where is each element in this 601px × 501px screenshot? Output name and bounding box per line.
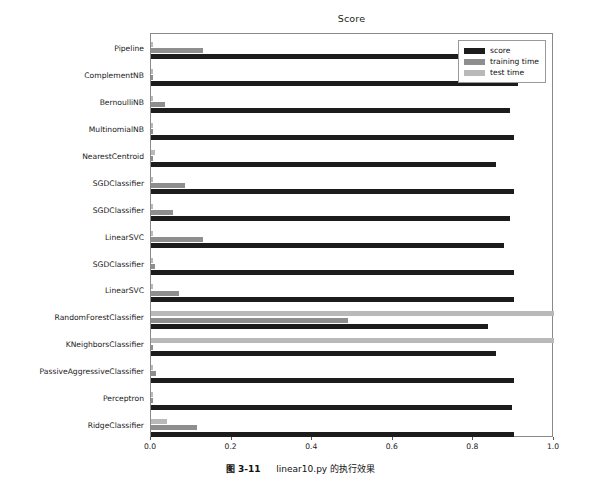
bar-group <box>151 142 552 169</box>
bar-group <box>151 357 552 384</box>
bar-group <box>151 169 552 196</box>
bar-score <box>151 243 504 248</box>
bar-test <box>151 365 153 370</box>
bar-score <box>151 432 514 437</box>
bar-train <box>151 183 185 188</box>
bar-score <box>151 135 514 140</box>
legend-item-train: training time <box>464 56 539 67</box>
bar-train <box>151 398 153 403</box>
x-tick-label: 0.0 <box>144 442 156 451</box>
bar-train <box>151 425 197 430</box>
x-tick-mark <box>311 437 312 440</box>
y-tick-label: Perceptron <box>103 394 144 403</box>
x-tick-mark <box>150 437 151 440</box>
bar-train <box>151 210 173 215</box>
y-tick-label: LinearSVC <box>105 286 144 295</box>
x-tick-mark <box>472 437 473 440</box>
y-tick-label: BernoulliNB <box>100 97 144 106</box>
bar-group <box>151 223 552 250</box>
y-axis-tick-labels: PipelineComplementNBBernoulliNBMultinomi… <box>0 33 144 437</box>
x-tick-label: 0.4 <box>305 442 317 451</box>
matplotlib-figure: Score PipelineComplementNBBernoulliNBMul… <box>0 0 601 501</box>
bar-test <box>151 42 153 47</box>
x-tick-label: 0.8 <box>466 442 478 451</box>
bar-test <box>151 150 155 155</box>
bar-test <box>151 419 167 424</box>
bar-train <box>151 237 203 242</box>
y-tick-label: ComplementNB <box>84 71 144 80</box>
x-tick-mark <box>392 437 393 440</box>
legend-label: score <box>490 46 510 55</box>
x-axis: 0.00.20.40.60.81.0 <box>150 437 553 461</box>
bar-test <box>151 311 554 316</box>
y-tick-label: MultinomialNB <box>89 124 144 133</box>
bar-test <box>151 204 153 209</box>
bar-score <box>151 108 510 113</box>
bar-train <box>151 264 155 269</box>
bar-score <box>151 162 496 167</box>
bar-train <box>151 291 179 296</box>
bar-test <box>151 123 153 128</box>
bar-group <box>151 88 552 115</box>
bar-group <box>151 303 552 330</box>
bar-train <box>151 102 165 107</box>
plot-area: scoretraining timetest time <box>150 33 553 437</box>
bar-train <box>151 318 348 323</box>
bar-score <box>151 216 510 221</box>
bar-test <box>151 284 153 289</box>
legend-swatch-train <box>464 59 485 65</box>
y-tick-label: LinearSVC <box>105 232 144 241</box>
y-tick-label: SGDClassifier <box>93 259 144 268</box>
bar-train <box>151 75 153 80</box>
x-tick-mark <box>231 437 232 440</box>
bar-score <box>151 351 496 356</box>
bar-train <box>151 129 153 134</box>
legend-swatch-score <box>464 48 485 54</box>
bar-group <box>151 411 552 438</box>
bar-test <box>151 231 153 236</box>
bar-group <box>151 115 552 142</box>
legend-label: test time <box>490 68 524 77</box>
legend-item-test: test time <box>464 67 539 78</box>
bar-score <box>151 378 514 383</box>
y-tick-label: SGDClassifier <box>93 205 144 214</box>
y-tick-label: SGDClassifier <box>93 178 144 187</box>
y-tick-label: KNeighborsClassifier <box>66 340 144 349</box>
bar-train <box>151 48 203 53</box>
y-tick-label: RidgeClassifier <box>88 421 144 430</box>
bar-score <box>151 297 514 302</box>
y-tick-label: PassiveAggressiveClassifier <box>40 367 144 376</box>
bar-score <box>151 54 496 59</box>
bar-group <box>151 196 552 223</box>
bar-score <box>151 189 514 194</box>
bar-score <box>151 270 514 275</box>
bar-train <box>151 345 153 350</box>
bar-test <box>151 177 153 182</box>
y-tick-label: NearestCentroid <box>82 151 144 160</box>
bar-score <box>151 405 512 410</box>
legend-item-score: score <box>464 45 539 56</box>
bar-train <box>151 156 153 161</box>
x-tick-label: 0.2 <box>225 442 237 451</box>
chart-legend: scoretraining timetest time <box>458 40 546 83</box>
bars-container <box>151 34 552 436</box>
bar-test <box>151 392 153 397</box>
caption-text: linear10.py 的执行效果 <box>276 464 375 474</box>
legend-label: training time <box>490 57 539 66</box>
bar-test <box>151 338 554 343</box>
bar-group <box>151 330 552 357</box>
x-tick-label: 1.0 <box>547 442 559 451</box>
bar-group <box>151 384 552 411</box>
x-tick-mark <box>553 437 554 440</box>
y-tick-label: Pipeline <box>114 44 144 53</box>
bar-group <box>151 276 552 303</box>
x-tick-label: 0.6 <box>386 442 398 451</box>
figure-caption: 图 3-11 linear10.py 的执行效果 <box>0 462 601 475</box>
bar-test <box>151 69 153 74</box>
bar-score <box>151 324 488 329</box>
bar-group <box>151 249 552 276</box>
bar-test <box>151 258 153 263</box>
legend-swatch-test <box>464 70 485 76</box>
caption-number: 图 3-11 <box>226 464 261 474</box>
y-tick-label: RandomForestClassifier <box>55 313 144 322</box>
